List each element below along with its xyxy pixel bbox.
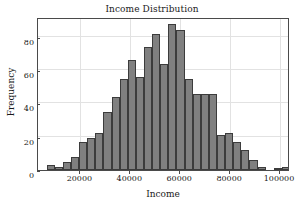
histogram-bar [185, 79, 193, 170]
histogram-bar [249, 160, 257, 170]
histogram-bar [176, 30, 184, 170]
histogram-bar [201, 94, 209, 171]
histogram-bar [168, 24, 176, 170]
x-axis-tick-mark [279, 171, 280, 174]
histogram-bar [152, 34, 160, 170]
x-axis-tick-mark [79, 171, 80, 174]
x-axis-tick-mark [179, 171, 180, 174]
y-axis-tick-marks [37, 18, 41, 171]
histogram-bar [193, 94, 201, 171]
x-axis-tick-label: 100000 [264, 174, 295, 183]
histogram-bar [71, 157, 79, 170]
bars-container [38, 19, 288, 170]
histogram-bar [217, 135, 225, 170]
x-axis-tick-label: 40000 [117, 174, 142, 183]
x-axis-label: Income [37, 189, 289, 199]
histogram-bar [241, 150, 249, 170]
histogram-bar [79, 142, 87, 170]
x-axis-tick-label: 60000 [166, 174, 191, 183]
y-axis-tick-mark [37, 138, 40, 139]
histogram-bar [55, 167, 63, 170]
histogram-bar [136, 77, 144, 170]
x-axis-tick-label: 80000 [216, 174, 241, 183]
y-axis-tick-mark [37, 71, 40, 72]
x-axis-tick-marks [37, 171, 289, 175]
plot-area [37, 18, 289, 171]
histogram-bar [103, 112, 111, 170]
x-axis-tick-mark [129, 171, 130, 174]
histogram-bar [233, 142, 241, 170]
histogram-bar [63, 162, 71, 170]
histogram-bar [160, 64, 168, 170]
histogram-bar [144, 47, 152, 170]
histogram-bar [120, 79, 128, 170]
x-axis-tick-label: 20000 [67, 174, 92, 183]
histogram-bar [225, 133, 233, 170]
x-axis-tick-mark [229, 171, 230, 174]
histogram-bar [112, 97, 120, 170]
histogram-bar [87, 138, 95, 170]
histogram-bar [95, 133, 103, 170]
histogram-bar [47, 165, 55, 170]
histogram-bar [282, 167, 289, 170]
y-axis-label: Frequency [6, 52, 16, 132]
histogram-bar [274, 168, 282, 170]
histogram-bar [258, 167, 266, 170]
histogram-bar [128, 60, 136, 170]
x-axis-tick-labels: 20000400006000080000100000 [37, 174, 289, 188]
chart-title: Income Distribution [0, 4, 304, 14]
y-axis-tick-mark [37, 104, 40, 105]
histogram-figure: Income Distribution 020406080 2000040000… [0, 0, 304, 211]
histogram-bar [209, 94, 217, 171]
y-axis-tick-mark [37, 38, 40, 39]
